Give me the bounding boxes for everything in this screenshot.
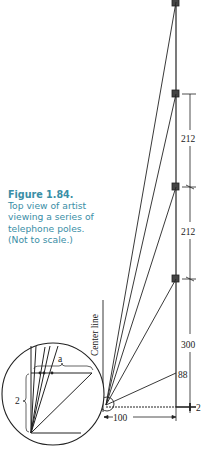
dim-label-100: 100 — [113, 413, 128, 423]
center-line-label: Center line — [90, 314, 100, 356]
dim-label-300: 300 — [181, 340, 196, 350]
sight-lines — [106, 2, 176, 405]
magnified-inset: a 2 — [2, 343, 104, 445]
angle-point-label-88: 88 — [178, 370, 188, 380]
dim-label-212-upper: 212 — [181, 134, 196, 144]
inset-label-2: 2 — [15, 396, 20, 406]
telephone-pole-diagram: 212 212 300 88 2 100 Center line — [0, 0, 215, 453]
inset-circle — [2, 343, 104, 445]
pole-2 — [172, 275, 179, 282]
dim-label-212-middle: 212 — [181, 227, 196, 237]
dim-label-2: 2 — [196, 403, 201, 413]
